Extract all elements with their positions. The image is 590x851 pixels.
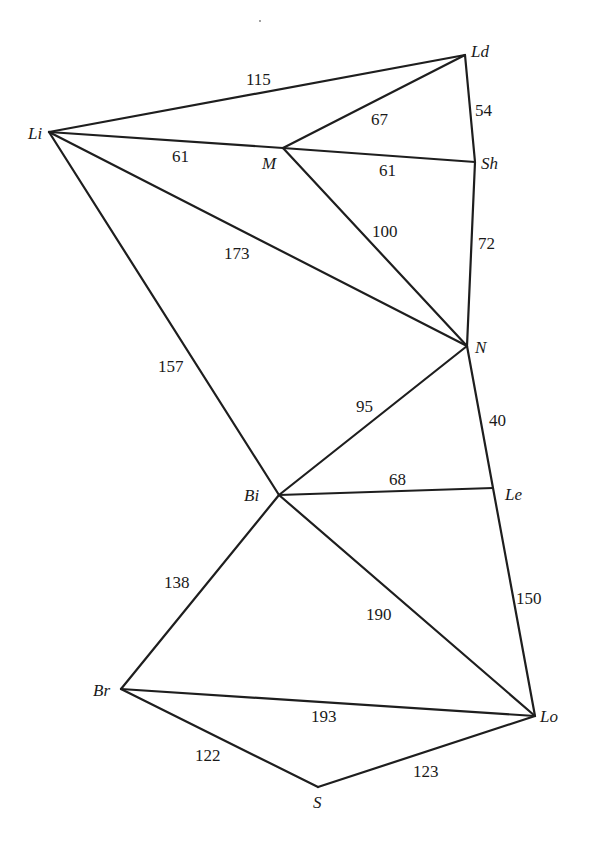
node-label-m: M: [261, 154, 277, 173]
node-label-ld: Ld: [470, 42, 489, 61]
edge-weight-label: 157: [158, 357, 184, 376]
edge-weight-label: 173: [224, 244, 250, 263]
edge-weight-label: 123: [413, 762, 439, 781]
edge-weight-label: 40: [489, 411, 506, 430]
node-label-lo: Lo: [539, 707, 558, 726]
edge-weight-label: 115: [246, 70, 271, 89]
graph-diagram: 1156754616110072173157954068138190150193…: [0, 0, 590, 851]
node-label-li: Li: [27, 124, 42, 143]
edge-weight-label: 138: [164, 573, 190, 592]
print-speck: [259, 20, 261, 22]
edge-weight-label: 100: [372, 222, 398, 241]
edge-weight-label: 150: [516, 589, 542, 608]
edge-weight-label: 54: [475, 101, 493, 120]
edge-weight-label: 67: [371, 110, 389, 129]
node-label-bi: Bi: [244, 486, 259, 505]
edge-weight-label: 72: [478, 234, 495, 253]
edge-weight-label: 68: [389, 470, 406, 489]
edge-weight-label: 122: [195, 746, 221, 765]
node-label-br: Br: [93, 681, 110, 700]
node-label-sh: Sh: [481, 154, 498, 173]
edge-weight-label: 61: [172, 147, 189, 166]
edge-weight-label: 193: [311, 707, 337, 726]
edge-weight-label: 95: [356, 397, 373, 416]
node-label-le: Le: [504, 485, 522, 504]
node-label-n: N: [474, 338, 488, 357]
node-label-s: S: [313, 793, 322, 812]
edge-weight-label: 61: [379, 161, 396, 180]
edge-weight-label: 190: [366, 605, 392, 624]
